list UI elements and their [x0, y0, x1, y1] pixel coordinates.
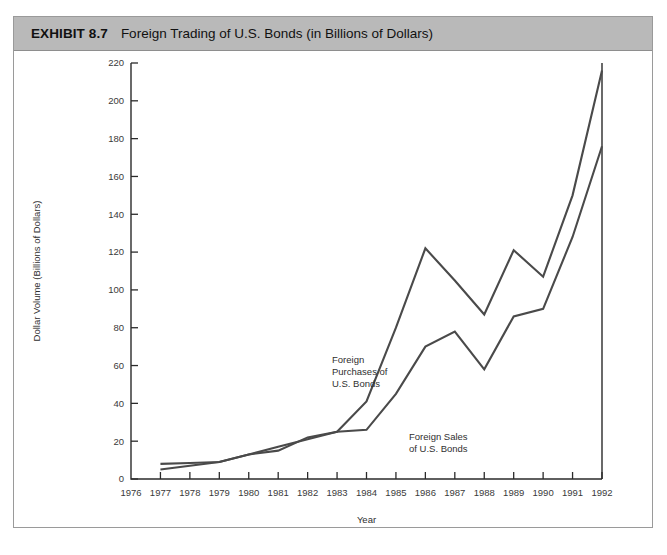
series-annotation: Purchases of — [332, 366, 388, 377]
x-tick-label: 1982 — [297, 487, 318, 498]
y-tick-label: 20 — [113, 436, 124, 447]
y-tick-label: 120 — [108, 246, 124, 257]
y-tick-label: 180 — [108, 133, 124, 144]
y-tick-label: 140 — [108, 209, 124, 220]
series-annotation: of U.S. Bonds — [409, 443, 468, 454]
chart-panel: 020406080100120140160180200220 197619771… — [14, 51, 652, 527]
y-tick-label: 0 — [119, 473, 124, 484]
line-chart: 020406080100120140160180200220 197619771… — [14, 51, 652, 527]
y-tick-label: 80 — [113, 322, 124, 333]
x-tick-label: 1986 — [415, 487, 436, 498]
x-tick-label: 1988 — [474, 487, 495, 498]
x-axis-title: Year — [357, 514, 376, 525]
x-tick-label: 1983 — [326, 487, 347, 498]
data-series-group — [160, 71, 602, 470]
x-tick-label: 1992 — [591, 487, 612, 498]
x-tick-label: 1977 — [150, 487, 171, 498]
y-tick-label: 200 — [108, 95, 124, 106]
x-tick-label: 1980 — [238, 487, 259, 498]
y-tick-label: 40 — [113, 398, 124, 409]
series-annotation: Foreign — [332, 354, 364, 365]
x-tick-label: 1990 — [533, 487, 554, 498]
exhibit-header: EXHIBIT 8.7 Foreign Trading of U.S. Bond… — [14, 17, 652, 51]
series-annotation: Foreign Sales — [409, 431, 468, 442]
x-tick-label: 1981 — [268, 487, 289, 498]
y-tick-label: 160 — [108, 171, 124, 182]
x-tick-label: 1991 — [562, 487, 583, 498]
plot-frame — [131, 63, 602, 479]
x-axis-ticks: 1976197719781979198019811982198319841985… — [120, 472, 612, 498]
x-tick-label: 1984 — [356, 487, 377, 498]
y-axis-ticks: 020406080100120140160180200220 — [108, 57, 138, 484]
y-tick-label: 60 — [113, 360, 124, 371]
annotation-group: ForeignPurchases ofU.S. BondsForeign Sal… — [332, 354, 468, 454]
y-tick-label: 220 — [108, 57, 124, 68]
y-tick-label: 100 — [108, 284, 124, 295]
x-tick-label: 1987 — [444, 487, 465, 498]
series-line — [160, 71, 602, 464]
exhibit-title: Foreign Trading of U.S. Bonds (in Billio… — [121, 26, 433, 41]
x-tick-label: 1989 — [503, 487, 524, 498]
exhibit-label: EXHIBIT 8.7 — [31, 26, 108, 41]
series-line — [160, 146, 602, 469]
x-tick-label: 1976 — [120, 487, 141, 498]
exhibit-frame: EXHIBIT 8.7 Foreign Trading of U.S. Bond… — [13, 16, 653, 528]
x-tick-label: 1985 — [385, 487, 406, 498]
series-annotation: U.S. Bonds — [332, 378, 380, 389]
x-tick-label: 1979 — [209, 487, 230, 498]
x-tick-label: 1978 — [179, 487, 200, 498]
y-axis-title: Dollar Volume (Billions of Dollars) — [31, 201, 42, 342]
